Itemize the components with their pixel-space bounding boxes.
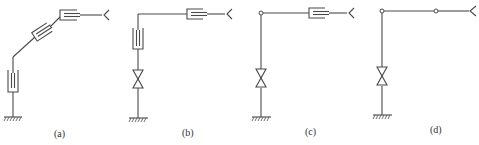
ground-icon <box>129 118 148 122</box>
pin-joint-icon <box>380 9 384 13</box>
panel-a <box>4 10 109 121</box>
ground-icon <box>252 117 271 121</box>
horizontal-prismatic-joint-icon <box>60 10 80 20</box>
revolute-joint-icon <box>377 67 387 85</box>
gripper-icon <box>349 8 354 18</box>
vertical-prismatic-joint-icon <box>133 28 143 49</box>
robot-arm-diagrams <box>0 0 479 145</box>
gripper-icon <box>227 9 232 19</box>
panel-d <box>373 6 476 119</box>
gripper-icon <box>470 6 476 16</box>
ground-icon <box>4 117 22 121</box>
pin-joint-icon <box>259 11 263 15</box>
pin-joint-icon <box>434 9 438 13</box>
panel-label-d: (d) <box>430 124 442 135</box>
gripper-icon <box>104 10 109 20</box>
panel-label-b: (b) <box>182 127 194 138</box>
vertical-prismatic-joint-icon <box>8 70 18 92</box>
ground-icon <box>373 115 392 119</box>
revolute-joint-icon <box>256 69 266 87</box>
panel-b <box>129 9 232 122</box>
horizontal-prismatic-joint-icon <box>187 9 207 19</box>
panel-label-a: (a) <box>54 128 65 139</box>
panel-label-c: (c) <box>305 126 316 137</box>
revolute-joint-icon <box>133 70 143 88</box>
panel-c <box>252 8 354 121</box>
horizontal-prismatic-joint-icon <box>309 8 329 18</box>
inclined-prismatic-joint-icon <box>32 22 54 41</box>
